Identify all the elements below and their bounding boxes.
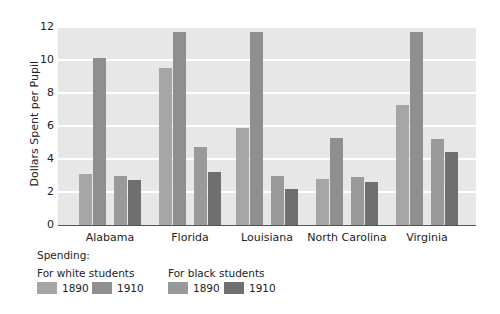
bar-alabama-s2 <box>114 176 127 226</box>
x-axis-line <box>58 225 476 226</box>
legend-item-black-1910: 1910 <box>224 282 276 294</box>
legend-group-black-students: For black students <box>168 267 265 279</box>
y-tick-label: 6 <box>38 120 54 132</box>
y-tick-label: 8 <box>38 87 54 99</box>
y-tick-label: 12 <box>38 21 54 33</box>
legend-title: Spending: <box>37 249 90 261</box>
bar-louisiana-s1 <box>250 32 263 225</box>
bar-florida-s2 <box>194 147 207 225</box>
bar-alabama-s1 <box>93 58 106 225</box>
bar-florida-s3 <box>208 172 221 225</box>
legend-swatch <box>37 282 57 294</box>
legend-item-white-1890: 1890 <box>37 282 89 294</box>
y-tick-label: 10 <box>38 54 54 66</box>
bar-north-carolina-s1 <box>330 138 343 225</box>
y-tick-label: 0 <box>38 219 54 231</box>
x-category-label: Virginia <box>377 231 477 244</box>
bar-florida-s1 <box>173 32 186 225</box>
bar-virginia-s2 <box>431 139 444 225</box>
bar-alabama-s3 <box>128 180 141 225</box>
plot-area <box>58 27 476 225</box>
y-tick-label: 2 <box>38 186 54 198</box>
bar-louisiana-s2 <box>271 176 284 226</box>
bar-north-carolina-s0 <box>316 179 329 225</box>
legend-swatch <box>224 282 244 294</box>
bar-virginia-s1 <box>410 32 423 225</box>
bar-virginia-s3 <box>445 152 458 225</box>
gridline <box>58 26 476 28</box>
legend-item-white-1910: 1910 <box>92 282 144 294</box>
legend-label: 1890 <box>193 282 220 294</box>
legend-label: 1910 <box>117 282 144 294</box>
legend-swatch <box>92 282 112 294</box>
bar-virginia-s0 <box>396 105 409 225</box>
legend-label: 1910 <box>249 282 276 294</box>
bar-louisiana-s0 <box>236 128 249 225</box>
legend-label: 1890 <box>62 282 89 294</box>
legend-swatch <box>168 282 188 294</box>
y-tick-label: 4 <box>38 153 54 165</box>
legend-item-black-1890: 1890 <box>168 282 220 294</box>
bar-florida-s0 <box>159 68 172 225</box>
bar-north-carolina-s3 <box>365 182 378 225</box>
bar-alabama-s0 <box>79 174 92 225</box>
bar-louisiana-s3 <box>285 189 298 225</box>
bar-north-carolina-s2 <box>351 177 364 225</box>
legend-group-white-students: For white students <box>37 267 134 279</box>
